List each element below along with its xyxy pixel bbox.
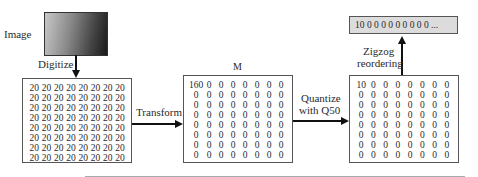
matrix-cell: 0 bbox=[404, 100, 416, 110]
matrix-cell: 0 bbox=[380, 90, 392, 100]
matrix-cell: 0 bbox=[189, 120, 203, 130]
matrix-cell: 20 bbox=[53, 133, 65, 143]
matrix-cell: 20 bbox=[40, 113, 52, 123]
matrix-cell: 20 bbox=[102, 143, 114, 153]
matrix-cell: 20 bbox=[28, 93, 40, 103]
matrix-cell: 20 bbox=[114, 153, 126, 163]
matrix-cell: 0 bbox=[416, 130, 428, 140]
transform-label: Transform bbox=[136, 106, 182, 118]
matrix-cell: 0 bbox=[215, 90, 227, 100]
matrix-cell: 20 bbox=[65, 153, 77, 163]
matrix-cell: 0 bbox=[380, 130, 392, 140]
matrix-cell: 0 bbox=[203, 120, 215, 130]
matrix-cell: 20 bbox=[28, 113, 40, 123]
matrix-cell: 10 bbox=[355, 80, 367, 90]
matrix-cell: 0 bbox=[275, 140, 287, 150]
matrix-cell: 0 bbox=[355, 140, 367, 150]
matrix-cell: 0 bbox=[404, 150, 416, 160]
matrix-cell: 20 bbox=[89, 83, 101, 93]
matrix-cell: 0 bbox=[263, 90, 275, 100]
matrix-cell: 20 bbox=[77, 123, 89, 133]
matrix-cell: 0 bbox=[189, 90, 203, 100]
matrix-cell: 0 bbox=[380, 80, 392, 90]
matrix-cell: 0 bbox=[392, 100, 404, 110]
matrix-cell: 0 bbox=[227, 150, 239, 160]
matrix-cell: 20 bbox=[89, 103, 101, 113]
digitize-arrow-head-icon bbox=[72, 70, 80, 78]
matrix-cell: 0 bbox=[275, 90, 287, 100]
matrix-cell: 0 bbox=[251, 140, 263, 150]
matrix-cell: 20 bbox=[28, 123, 40, 133]
matrix-cell: 0 bbox=[189, 110, 203, 120]
matrix-m-label: M bbox=[233, 61, 242, 73]
matrix-cell: 0 bbox=[367, 90, 379, 100]
matrix-cell: 0 bbox=[215, 130, 227, 140]
matrix-cell: 20 bbox=[102, 83, 114, 93]
matrix-cell: 0 bbox=[251, 150, 263, 160]
matrix-cell: 20 bbox=[40, 153, 52, 163]
matrix-cell: 0 bbox=[429, 100, 441, 110]
matrix-cell: 20 bbox=[102, 103, 114, 113]
matrix-cell: 0 bbox=[227, 80, 239, 90]
matrix-cell: 0 bbox=[251, 110, 263, 120]
matrix-cell: 0 bbox=[392, 150, 404, 160]
matrix-cell: 0 bbox=[429, 90, 441, 100]
matrix-cell: 0 bbox=[239, 80, 251, 90]
matrix-cell: 20 bbox=[65, 93, 77, 103]
matrix-cell: 0 bbox=[441, 110, 453, 120]
matrix-cell: 20 bbox=[40, 133, 52, 143]
matrix-cell: 0 bbox=[392, 90, 404, 100]
digitize-arrow-shaft bbox=[75, 55, 77, 71]
matrix-cell: 20 bbox=[114, 133, 126, 143]
matrix-cell: 0 bbox=[215, 80, 227, 90]
matrix-cell: 0 bbox=[189, 130, 203, 140]
matrix-cell: 20 bbox=[102, 133, 114, 143]
matrix-cell: 0 bbox=[227, 110, 239, 120]
matrix-cell: 20 bbox=[65, 143, 77, 153]
zigzag-label-line2: reordering bbox=[357, 57, 403, 69]
matrix-cell: 0 bbox=[441, 100, 453, 110]
matrix-cell: 0 bbox=[380, 150, 392, 160]
matrix-cell: 0 bbox=[215, 150, 227, 160]
matrix-cell: 20 bbox=[53, 123, 65, 133]
matrix-cell: 20 bbox=[89, 143, 101, 153]
matrix-cell: 0 bbox=[367, 140, 379, 150]
matrix-cell: 20 bbox=[53, 83, 65, 93]
digitize-label: Digitize bbox=[38, 58, 73, 70]
matrix-cell: 0 bbox=[215, 110, 227, 120]
matrix-cell: 0 bbox=[367, 130, 379, 140]
matrix-cell: 0 bbox=[251, 80, 263, 90]
matrix-cell: 0 bbox=[404, 110, 416, 120]
matrix-cell: 0 bbox=[275, 150, 287, 160]
matrix-cell: 20 bbox=[102, 113, 114, 123]
matrix-cell: 0 bbox=[416, 110, 428, 120]
matrix-cell: 20 bbox=[28, 153, 40, 163]
matrix-cell: 20 bbox=[40, 83, 52, 93]
matrix-cell: 20 bbox=[28, 143, 40, 153]
matrix-cell: 0 bbox=[227, 130, 239, 140]
matrix-cell: 20 bbox=[77, 113, 89, 123]
matrix-cell: 0 bbox=[239, 90, 251, 100]
matrix-cell: 0 bbox=[215, 120, 227, 130]
matrix-cell: 0 bbox=[251, 130, 263, 140]
matrix-cell: 0 bbox=[189, 100, 203, 110]
matrix-cell: 20 bbox=[65, 133, 77, 143]
matrix-cell: 0 bbox=[441, 150, 453, 160]
matrix-cell: 0 bbox=[203, 80, 215, 90]
matrix-cell: 0 bbox=[239, 110, 251, 120]
matrix-cell: 0 bbox=[429, 80, 441, 90]
zigzag-arrow-head-icon bbox=[398, 36, 406, 44]
matrix-cell: 0 bbox=[355, 130, 367, 140]
matrix-cell: 0 bbox=[416, 100, 428, 110]
matrix-cell: 20 bbox=[53, 113, 65, 123]
matrix-cell: 0 bbox=[263, 110, 275, 120]
matrix-cell: 0 bbox=[251, 100, 263, 110]
quantize-arrow-head-icon bbox=[341, 117, 349, 125]
matrix-cell: 20 bbox=[77, 103, 89, 113]
matrix-cell: 0 bbox=[429, 110, 441, 120]
matrix-cell: 20 bbox=[114, 143, 126, 153]
transform-arrow-shaft bbox=[132, 123, 175, 125]
matrix-cell: 20 bbox=[53, 93, 65, 103]
matrix-cell: 0 bbox=[429, 120, 441, 130]
matrix-cell: 20 bbox=[65, 123, 77, 133]
